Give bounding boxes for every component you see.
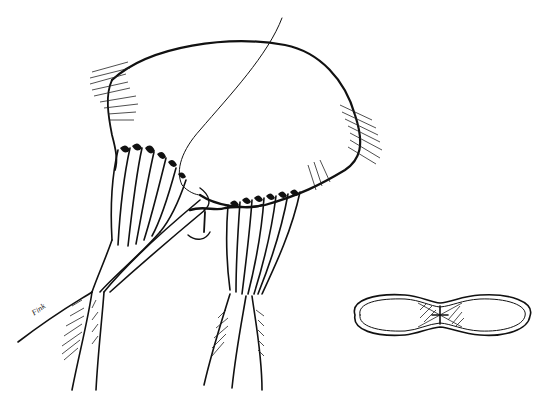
right-chordae-tendineae [227, 189, 300, 294]
right-dome-hatching [308, 105, 382, 190]
left-chordae-tendineae [92, 143, 205, 292]
left-dome-hatching [90, 62, 138, 120]
valve-illustration [0, 0, 555, 414]
right-papillary-muscle [204, 294, 264, 390]
inset-valve-orifice [354, 295, 530, 336]
left-papillary-muscle [18, 292, 104, 390]
valve-leaflet-dome [108, 18, 360, 207]
